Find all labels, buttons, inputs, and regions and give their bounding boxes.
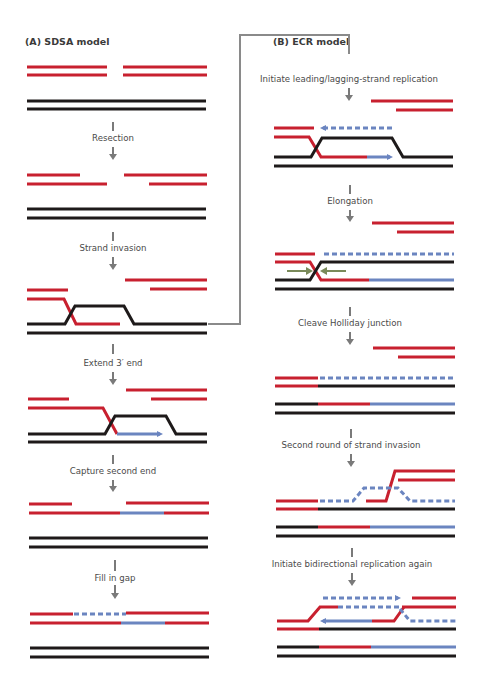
step-arrow-strand-invasion: Strand invasion (79, 232, 146, 270)
step-label: Initiate bidirectional replication again (272, 559, 433, 569)
step-label: Elongation (327, 196, 373, 206)
panel-b-stage-second-invasion (276, 471, 455, 536)
down-arrow-icon (109, 154, 117, 160)
down-arrow-icon (109, 486, 117, 492)
step-arrow-extend-3-end: Extend 3′ end (83, 344, 142, 385)
down-arrow-icon (109, 264, 117, 270)
step-label: Resection (92, 133, 134, 143)
panel-a-stage-extend (28, 390, 207, 442)
panel-b-stage-bidirectional (277, 598, 456, 656)
panel-a-title: (A) SDSA model (25, 36, 110, 47)
step-label: Extend 3′ end (83, 358, 142, 368)
panel-a-stage-strand-invasion (27, 280, 207, 333)
panel-a-stage-capture (29, 503, 209, 547)
down-arrow-icon (347, 461, 355, 467)
step-arrow-initiate-leading-lagging: Initiate leading/lagging-strand replicat… (260, 74, 438, 101)
panel-b-stage-leading-lagging (274, 101, 453, 166)
panel-a-stage-initial (27, 67, 207, 109)
down-arrow-icon (345, 95, 353, 101)
down-arrow-icon (109, 379, 117, 385)
step-arrow-second-round-strand-invasion: Second round of strand invasion (281, 429, 420, 467)
step-arrow-initiate-bidirectional: Initiate bidirectional replication again (272, 548, 433, 586)
step-label: Fill in gap (95, 573, 136, 583)
step-arrow-resection: Resection (92, 122, 134, 160)
down-arrow-icon (348, 580, 356, 586)
recombination-models-diagram: (A) SDSA model (B) ECR model Resection S… (0, 0, 477, 693)
step-label: Initiate leading/lagging-strand replicat… (260, 74, 438, 84)
step-arrow-cleave-holliday-junction: Cleave Holliday junction (298, 307, 402, 345)
down-arrow-icon (111, 593, 119, 599)
panel-b-stage-elongation (275, 223, 454, 289)
panel-b-stage-cleave (275, 348, 455, 413)
down-arrow-icon (346, 216, 354, 222)
step-label: Capture second end (70, 466, 156, 476)
step-arrow-elongation: Elongation (327, 185, 373, 222)
step-label: Strand invasion (79, 243, 146, 253)
panel-a-stage-resected (27, 175, 207, 218)
step-arrow-fill-in-gap: Fill in gap (95, 560, 136, 599)
step-label: Second round of strand invasion (281, 440, 420, 450)
step-arrow-capture-second-end: Capture second end (70, 455, 156, 492)
panel-a-stage-fill-gap (30, 613, 209, 657)
down-arrow-icon (346, 339, 354, 345)
panel-b-title: (B) ECR model (273, 36, 349, 47)
step-label: Cleave Holliday junction (298, 318, 402, 328)
